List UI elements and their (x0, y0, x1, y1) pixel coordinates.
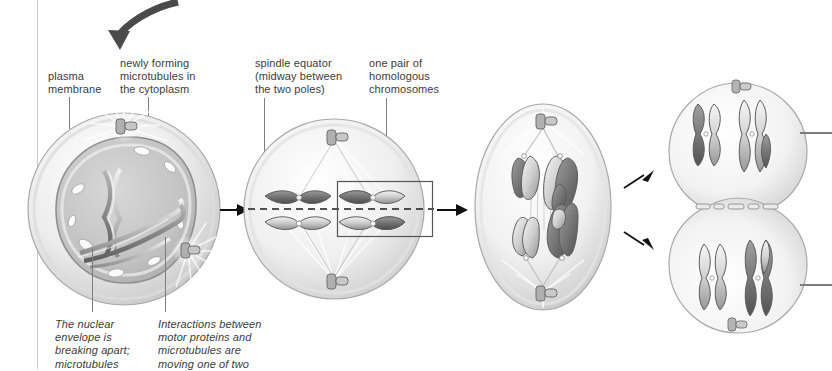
label-homologous-pair: one pair of homologous chromosomes (369, 57, 439, 97)
daughter-cell-lower (669, 198, 807, 333)
leader-motor-proteins (165, 237, 166, 312)
midbody-remnants (696, 204, 778, 209)
homologous-pair-highlight-box (336, 180, 436, 240)
curved-entry-arrow (90, 0, 190, 56)
telophase-i-cells (662, 78, 814, 338)
centrosome-lower (172, 235, 204, 267)
anaphase-i-cell (472, 100, 614, 314)
caption-nuclear-envelope: The nuclear envelope is breaking apart; … (55, 318, 130, 371)
label-newly-forming-microtubules: newly forming microtubules in the cytopl… (120, 57, 195, 97)
stage-arrow-2-3 (437, 202, 469, 218)
split-arrow-lower (622, 228, 656, 252)
centrosome-upper (108, 111, 140, 143)
label-plasma-membrane: plasma membrane (48, 70, 101, 96)
prophase-i-cell (20, 105, 230, 315)
label-spindle-equator: spindle equator (midway between the two … (255, 57, 342, 97)
leader-nuclear-envelope (92, 248, 93, 312)
right-leader-upper (800, 132, 832, 134)
caption-motor-proteins: Interactions between motor proteins and … (158, 318, 262, 371)
split-arrow-upper (622, 168, 656, 192)
right-leader-lower (800, 284, 832, 286)
